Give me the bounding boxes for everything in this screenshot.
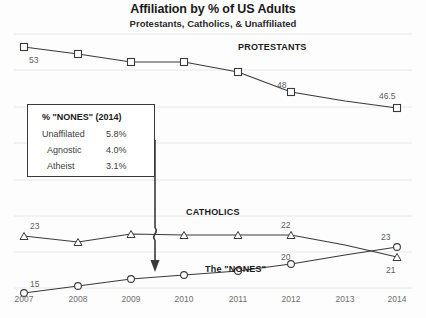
data-point-marker — [75, 283, 82, 290]
callout-label: Atheist — [47, 161, 75, 171]
point-label-nones-2014: 23 — [381, 232, 390, 242]
x-tick-2012: 2012 — [271, 294, 311, 304]
x-tick-2011: 2011 — [218, 294, 258, 304]
data-point-marker — [394, 105, 401, 112]
series-line-protestants — [21, 44, 401, 112]
x-tick-2007: 2007 — [4, 294, 44, 304]
data-point-marker — [235, 69, 242, 76]
data-point-marker — [393, 254, 401, 261]
callout-value: 4.0% — [106, 145, 127, 155]
data-point-marker — [128, 276, 135, 283]
series-label-protestants: PROTESTANTS — [238, 42, 307, 52]
data-point-marker — [181, 59, 188, 66]
data-point-marker — [181, 272, 188, 279]
point-label-protestants-2012: 48 — [277, 80, 286, 90]
point-label-nones-2012: 20 — [281, 252, 290, 262]
series-label-catholics: CATHOLICS — [186, 207, 240, 217]
callout-value: 5.8% — [106, 129, 127, 139]
chart-container: Affiliation by % of US Adults Protestant… — [0, 0, 426, 318]
point-label-catholics-2007: 23 — [30, 221, 39, 231]
point-label-catholics-2014: 21 — [386, 265, 395, 275]
point-label-protestants-2014: 46.5 — [379, 91, 396, 101]
data-point-marker — [128, 59, 135, 66]
x-tick-2013: 2013 — [325, 294, 365, 304]
data-point-marker — [21, 44, 28, 51]
x-tick-2009: 2009 — [111, 294, 151, 304]
x-tick-2014: 2014 — [377, 294, 417, 304]
callout-label: Agnostic — [47, 145, 82, 155]
data-point-marker — [394, 244, 401, 251]
series-line-catholics — [20, 231, 401, 261]
series-label-nones: The "NONES" — [205, 264, 266, 274]
point-label-catholics-2012: 22 — [281, 220, 290, 230]
point-label-nones-2007: 15 — [30, 279, 39, 289]
callout-value: 3.1% — [106, 161, 127, 171]
data-point-marker — [75, 51, 82, 58]
callout-title: % "NONES" (2014) — [42, 112, 122, 122]
x-tick-2008: 2008 — [58, 294, 98, 304]
data-point-marker — [288, 89, 295, 96]
nones-breakdown-callout: % "NONES" (2014) Unaffilated 5.8% Agnost… — [27, 104, 155, 177]
point-label-protestants-2007: 53 — [29, 55, 38, 65]
x-tick-2010: 2010 — [164, 294, 204, 304]
callout-label: Unaffilated — [42, 129, 85, 139]
